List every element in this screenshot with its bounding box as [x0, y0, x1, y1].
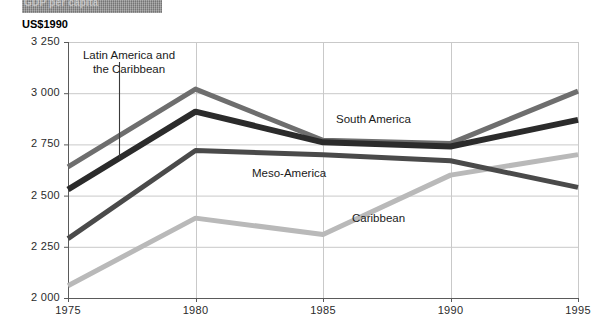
y-axis-tick-label: 3 000 [12, 86, 60, 98]
y-axis-tick-label: 2 750 [12, 137, 60, 149]
y-axis-tick-label: 2 500 [12, 189, 60, 201]
y-axis-tick-label: 2 000 [12, 291, 60, 303]
chart-figure: GDP per capita US$1990 2 0002 2502 5002 … [0, 0, 592, 325]
x-axis-tick-label: 1995 [555, 304, 592, 316]
series-label-meso-america: Meso-America [252, 167, 326, 179]
y-axis-tick-label: 3 250 [12, 35, 60, 47]
y-axis-tick-label: 2 250 [12, 240, 60, 252]
x-axis-tick-label: 1980 [173, 304, 219, 316]
series-label-caribbean: Caribbean [352, 212, 405, 224]
x-axis-tick-label: 1985 [300, 304, 346, 316]
x-axis-tick-label: 1990 [428, 304, 474, 316]
x-axis-tick-label: 1975 [45, 304, 91, 316]
series-label-south-america: South America [336, 113, 411, 125]
annotation-latin-america: Latin America and the Caribbean [70, 48, 188, 76]
